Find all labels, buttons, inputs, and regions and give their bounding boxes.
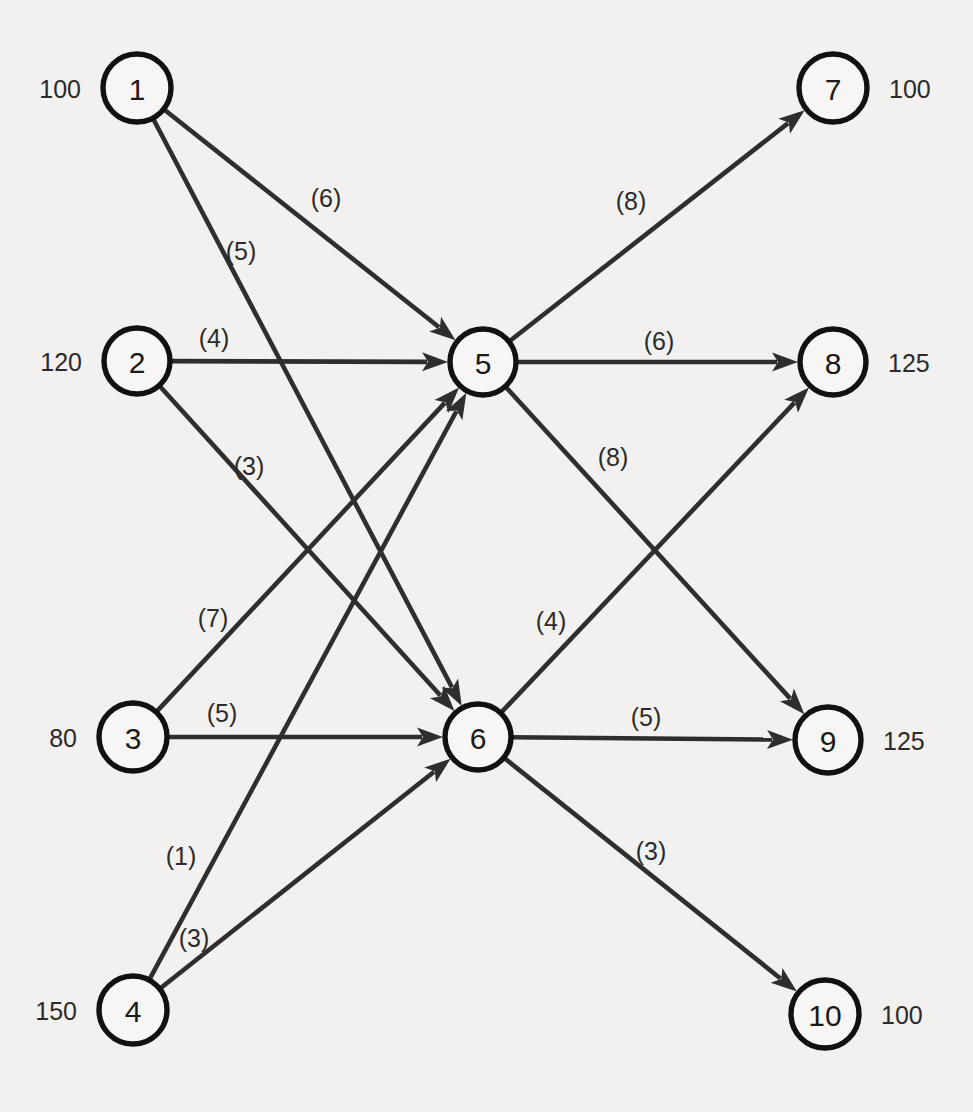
node-4-amount-label: 150 — [35, 997, 77, 1025]
edge-cost-label: (5) — [207, 699, 238, 727]
node-7-amount-label: 100 — [889, 75, 931, 103]
node-label: 2 — [129, 346, 146, 379]
edge-4-to-6 — [160, 759, 450, 989]
edge-cost-label: (4) — [199, 324, 230, 352]
node-label: 5 — [475, 347, 492, 380]
edge-line — [512, 737, 772, 739]
edge-line — [157, 403, 445, 711]
node-10[interactable]: 10 — [791, 980, 859, 1048]
edge-line — [505, 758, 781, 978]
edge-6-to-8 — [501, 387, 809, 712]
node-5[interactable]: 5 — [450, 329, 516, 395]
edge-6-to-10 — [505, 758, 797, 991]
node-4[interactable]: 4 — [99, 976, 167, 1044]
edge-cost-label: (8) — [616, 187, 647, 215]
edge-cost-label: (5) — [226, 237, 257, 265]
nodes-layer: 12345678910 — [99, 54, 867, 1048]
node-9[interactable]: 9 — [795, 707, 861, 773]
node-10-amount-label: 100 — [881, 1001, 923, 1029]
edge-cost-label: (3) — [636, 837, 667, 865]
node-8-amount-label: 125 — [888, 349, 930, 377]
edge-3-to-6 — [168, 728, 443, 747]
edge-cost-labels-layer: (6)(5)(4)(3)(7)(5)(1)(3)(8)(6)(8)(4)(5)(… — [166, 184, 675, 952]
edge-6-to-9 — [512, 730, 793, 749]
edge-cost-label: (6) — [644, 327, 675, 355]
node-9-amount-label: 125 — [883, 727, 925, 755]
edge-line — [171, 361, 427, 362]
edge-cost-label: (1) — [166, 842, 197, 870]
edge-line — [153, 119, 452, 687]
node-3-amount-label: 80 — [49, 724, 77, 752]
edge-line — [160, 386, 441, 695]
edge-cost-label: (3) — [179, 924, 210, 952]
node-7[interactable]: 7 — [799, 54, 867, 122]
edge-cost-label: (3) — [234, 452, 265, 480]
supply-demand-labels-layer: 10012080150100125125100 — [35, 75, 930, 1029]
edge-cost-label: (8) — [598, 443, 629, 471]
edge-cost-label: (7) — [198, 604, 229, 632]
node-label: 1 — [129, 73, 146, 106]
node-2[interactable]: 2 — [104, 328, 170, 394]
node-6[interactable]: 6 — [445, 704, 511, 770]
node-label: 8 — [825, 347, 842, 380]
network-diagram: 12345678910 (6)(5)(4)(3)(7)(5)(1)(3)(8)(… — [0, 0, 973, 1112]
edge-line — [506, 387, 790, 699]
edge-5-to-8 — [517, 353, 798, 372]
edge-line — [510, 123, 788, 341]
node-label: 7 — [825, 73, 842, 106]
node-2-amount-label: 120 — [40, 348, 82, 376]
edge-cost-label: (5) — [631, 703, 662, 731]
node-label: 4 — [125, 995, 142, 1028]
edge-cost-label: (6) — [311, 184, 342, 212]
node-label: 6 — [470, 722, 487, 755]
node-3[interactable]: 3 — [99, 703, 167, 771]
edge-line — [150, 411, 457, 979]
edge-line — [501, 403, 794, 713]
node-label: 3 — [125, 722, 142, 755]
node-label: 9 — [820, 725, 837, 758]
edge-2-to-5 — [171, 352, 448, 371]
node-label: 10 — [808, 999, 841, 1032]
edge-4-to-5 — [150, 393, 467, 979]
edge-5-to-7 — [510, 110, 805, 341]
network-graph-svg: 12345678910 (6)(5)(4)(3)(7)(5)(1)(3)(8)(… — [0, 0, 973, 1112]
node-8[interactable]: 8 — [800, 329, 866, 395]
node-1[interactable]: 1 — [103, 54, 171, 122]
node-1-amount-label: 100 — [39, 75, 81, 103]
edge-cost-label: (4) — [536, 607, 567, 635]
